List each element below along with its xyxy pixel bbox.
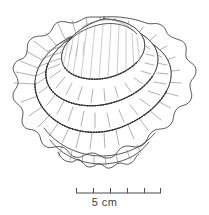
scale-bar: [76, 188, 161, 193]
figure-panel: 5 cm: [0, 0, 209, 215]
scale-bar-label: 5 cm: [0, 196, 209, 208]
artifact-line-drawing: [0, 0, 209, 215]
